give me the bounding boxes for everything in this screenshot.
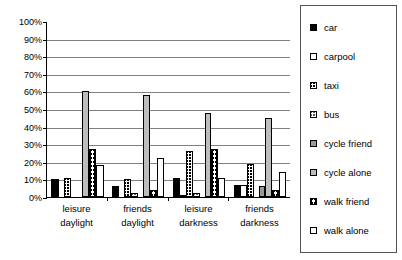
bar-group-bars (234, 22, 286, 197)
x-axis-category-label: leisuredaylight (46, 202, 107, 244)
bar-cycle-alone (143, 95, 150, 197)
bar-cycle-alone (265, 118, 272, 197)
bar-car (234, 185, 241, 197)
bar-walk-alone (279, 172, 286, 197)
bar-taxi (247, 164, 254, 197)
bar-walk-friend (211, 149, 218, 197)
x-axis-category-label-line: daylight (46, 216, 107, 230)
bar-bus (131, 193, 138, 197)
bar-car (173, 178, 180, 197)
x-axis-tick-mark (168, 197, 169, 201)
chart-root: 100%90%80%70%60%50%40%30%20%10%0% leisur… (0, 0, 402, 260)
x-axis-category-label-line: friends (229, 202, 290, 216)
bar-carpool (240, 185, 247, 197)
y-axis-tick-label: 90% (2, 35, 42, 44)
bar-car (112, 186, 119, 197)
bar-group (47, 22, 108, 197)
x-axis-category-label-line: leisure (168, 202, 229, 216)
y-axis-tick-mark (43, 198, 47, 199)
legend-item: taxi (310, 71, 396, 100)
y-axis-tick-label: 80% (2, 53, 42, 62)
legend-item-label: cycle friend (324, 138, 372, 149)
legend-item-label: bus (324, 109, 339, 120)
legend-item-label: car (324, 22, 337, 33)
bar-car (51, 179, 58, 197)
x-axis-tick-mark (107, 197, 108, 201)
legend-item: carpool (310, 42, 396, 71)
x-axis-tick-mark (228, 197, 229, 201)
bar-taxi (64, 178, 71, 197)
bar-group (169, 22, 230, 197)
y-axis-tick-label: 10% (2, 176, 42, 185)
legend-swatch-walk-friend (310, 198, 317, 205)
legend-item-label: walk friend (324, 196, 369, 207)
bar-walk-alone (157, 158, 164, 197)
y-axis-tick-label: 30% (2, 141, 42, 150)
x-axis-category-label-line: friends (107, 202, 168, 216)
legend-swatch-car (310, 24, 317, 31)
legend-swatch-carpool (310, 53, 317, 60)
bar-walk-alone (218, 178, 225, 197)
x-axis-category-label-line: darkness (168, 216, 229, 230)
plot-area (46, 22, 290, 198)
bar-walk-alone (96, 165, 103, 197)
y-axis-tick-label: 50% (2, 106, 42, 115)
legend-item: car (310, 13, 396, 42)
bar-group (229, 22, 290, 197)
bar-bus (193, 193, 200, 197)
bar-groups (47, 22, 290, 197)
y-axis-tick-label: 70% (2, 70, 42, 79)
bar-walk-friend (150, 190, 157, 197)
y-axis-tick-label: 60% (2, 88, 42, 97)
bar-cycle-alone (82, 91, 89, 197)
y-axis: 100%90%80%70%60%50%40%30%20%10%0% (0, 0, 42, 254)
x-axis: leisuredaylightfriendsdaylightleisuredar… (46, 202, 290, 244)
legend-item: walk alone (310, 216, 396, 245)
legend-item: bus (310, 100, 396, 129)
x-axis-category-label-line: leisure (46, 202, 107, 216)
legend-swatch-taxi (310, 82, 317, 89)
legend-swatch-walk-alone (310, 227, 317, 234)
x-axis-category-label: leisuredarkness (168, 202, 229, 244)
bar-cycle-alone (205, 113, 212, 197)
x-axis-category-label: friendsdaylight (107, 202, 168, 244)
x-axis-category-label: friendsdarkness (229, 202, 290, 244)
y-axis-tick-label: 0% (2, 194, 42, 203)
legend-swatch-cycle-friend (310, 140, 317, 147)
legend-swatch-bus (310, 111, 317, 118)
grouped-bar-chart: 100%90%80%70%60%50%40%30%20%10%0% leisur… (0, 0, 294, 254)
x-axis-category-label-line: daylight (107, 216, 168, 230)
legend-item-label: walk alone (324, 225, 369, 236)
x-axis-category-label-line: darkness (229, 216, 290, 230)
bar-walk-friend (272, 190, 279, 197)
legend-item-label: cycle alone (324, 167, 372, 178)
legend-swatch-cycle-alone (310, 169, 317, 176)
bar-group-bars (112, 22, 164, 197)
y-axis-tick-label: 100% (2, 18, 42, 27)
y-axis-tick-label: 20% (2, 158, 42, 167)
legend-item: cycle alone (310, 158, 396, 187)
bar-carpool (180, 195, 187, 197)
bar-group-bars (51, 22, 103, 197)
bar-cycle-friend (259, 186, 266, 197)
legend-item-label: carpool (324, 51, 355, 62)
y-axis-tick-label: 40% (2, 123, 42, 132)
bar-taxi (124, 179, 131, 197)
legend-item-label: taxi (324, 80, 339, 91)
bar-walk-friend (89, 149, 96, 197)
legend-item: cycle friend (310, 129, 396, 158)
chart-legend: carcarpooltaxibuscycle friendcycle alone… (300, 5, 397, 253)
bar-group-bars (173, 22, 225, 197)
bar-group (108, 22, 169, 197)
bar-taxi (186, 151, 193, 197)
legend-item: walk friend (310, 187, 396, 216)
